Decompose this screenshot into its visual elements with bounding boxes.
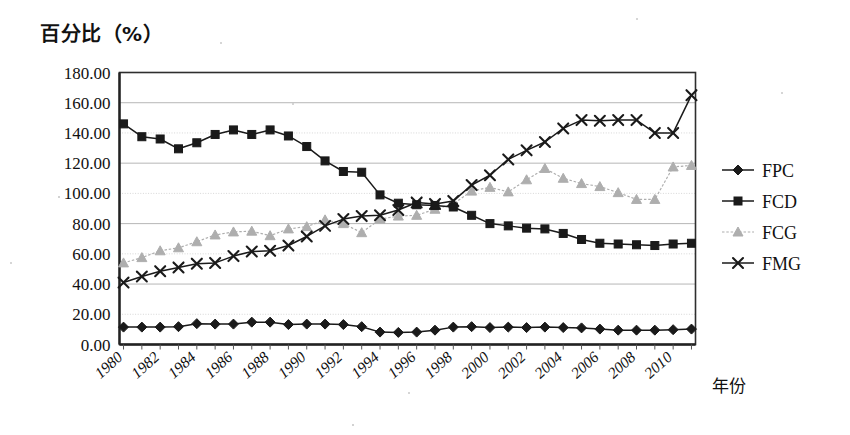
y-tick-label: 0.00	[81, 336, 111, 355]
data-point-marker	[651, 242, 659, 250]
scan-speck	[781, 92, 783, 94]
data-point-marker	[430, 325, 440, 335]
data-point-marker	[394, 199, 402, 207]
data-point-marker	[486, 220, 494, 228]
data-point-marker	[303, 143, 311, 151]
legend-label: FMG	[762, 254, 801, 274]
y-tick-label: 80.00	[72, 215, 110, 234]
legend-label: FCD	[762, 192, 797, 212]
scan-speck	[58, 196, 60, 198]
data-point-marker	[211, 130, 219, 138]
scan-speck	[292, 103, 294, 105]
data-point-marker	[393, 327, 403, 337]
data-point-marker	[540, 137, 550, 147]
data-point-marker	[485, 182, 495, 191]
data-point-marker	[155, 246, 165, 255]
data-point-marker	[156, 135, 164, 143]
data-point-marker	[558, 323, 568, 333]
data-point-marker	[248, 130, 256, 138]
legend-item-fcg[interactable]: FCG	[722, 223, 797, 243]
data-point-marker	[266, 126, 274, 134]
data-point-marker	[247, 226, 257, 235]
data-point-marker	[302, 319, 312, 329]
series-fmg	[119, 90, 697, 287]
data-point-marker	[357, 228, 367, 237]
scan-speck	[408, 392, 410, 394]
data-point-marker	[733, 165, 743, 175]
data-point-marker	[558, 173, 568, 182]
data-point-marker	[431, 201, 439, 209]
data-point-marker	[412, 327, 422, 337]
y-tick-label: 120.00	[64, 154, 111, 173]
data-point-marker	[633, 241, 641, 249]
y-tick-label: 140.00	[64, 124, 111, 143]
scan-speck	[10, 262, 12, 264]
legend-item-fpc[interactable]: FPC	[722, 161, 794, 181]
data-point-marker	[338, 320, 348, 330]
x-tick-label: 1988	[238, 348, 273, 382]
data-point-marker	[321, 157, 329, 165]
data-point-marker	[468, 211, 476, 219]
series-fcd	[120, 120, 696, 250]
x-tick-label: 1994	[348, 348, 383, 382]
data-point-marker	[283, 320, 293, 330]
y-tick-label: 160.00	[64, 94, 111, 113]
data-point-marker	[228, 319, 238, 329]
plot-frame	[120, 73, 696, 345]
data-point-marker	[467, 322, 477, 332]
data-point-marker	[559, 229, 567, 237]
data-point-marker	[173, 322, 183, 332]
data-point-marker	[283, 224, 293, 233]
data-point-marker	[228, 251, 238, 261]
legend-label: FPC	[762, 161, 794, 181]
data-point-marker	[522, 145, 532, 155]
x-tick-label: 2010	[641, 348, 676, 382]
data-point-marker	[192, 319, 202, 329]
scan-speck	[352, 424, 354, 426]
data-point-marker	[578, 235, 586, 243]
gridlines	[120, 73, 696, 315]
data-point-marker	[485, 323, 495, 333]
legend: FPCFCDFCGFMG	[722, 161, 801, 274]
data-point-marker	[650, 325, 660, 335]
legend-item-fmg[interactable]: FMG	[722, 254, 801, 274]
y-tick-label: 100.00	[64, 184, 111, 203]
data-point-marker	[413, 201, 421, 209]
data-point-marker	[503, 187, 513, 196]
data-point-marker	[320, 319, 330, 329]
data-point-marker	[687, 239, 695, 247]
data-point-marker	[283, 241, 293, 251]
x-tick-label: 1996	[384, 348, 419, 382]
data-point-marker	[358, 168, 366, 176]
data-point-marker	[357, 322, 367, 332]
data-point-marker	[210, 319, 220, 329]
data-point-marker	[614, 240, 622, 248]
y-tick-label: 20.00	[72, 305, 110, 324]
data-point-marker	[577, 323, 587, 333]
data-point-marker	[558, 123, 568, 133]
y-tick-label: 60.00	[72, 245, 110, 264]
x-tick-label: 1984	[164, 348, 199, 382]
data-point-marker	[734, 197, 742, 205]
x-tick-label: 1990	[274, 348, 309, 382]
data-point-marker	[448, 322, 458, 332]
data-point-marker	[613, 325, 623, 335]
data-point-marker	[540, 322, 550, 332]
data-point-marker	[193, 139, 201, 147]
data-point-marker	[284, 132, 292, 140]
legend-label: FCG	[762, 223, 797, 243]
y-tick-label: 180.00	[64, 64, 111, 83]
data-point-marker	[375, 327, 385, 337]
x-tick-label: 2004	[531, 348, 566, 382]
data-point-marker	[650, 194, 660, 203]
data-point-marker	[137, 322, 147, 332]
x-tick-label: 1982	[128, 348, 163, 382]
data-point-marker	[265, 317, 275, 327]
data-point-marker	[504, 222, 512, 230]
data-point-marker	[632, 325, 642, 335]
legend-item-fcd[interactable]: FCD	[722, 192, 797, 212]
data-point-marker	[540, 163, 550, 172]
x-tick-label: 2006	[567, 348, 602, 382]
data-point-marker	[503, 322, 513, 332]
data-point-marker	[138, 133, 146, 141]
